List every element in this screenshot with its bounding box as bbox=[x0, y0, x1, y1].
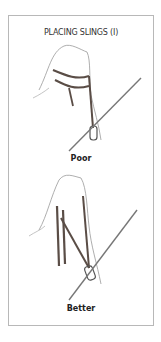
figure-frame: PLACING SLINGS (I) Poor Better bbox=[8, 15, 154, 326]
caption-better: Better bbox=[9, 304, 153, 313]
caption-poor: Poor bbox=[9, 154, 153, 163]
figure-title: PLACING SLINGS (I) bbox=[9, 28, 153, 37]
hand-with-sling-poor-icon bbox=[9, 40, 155, 152]
hand-with-sling-better-icon bbox=[9, 166, 155, 301]
